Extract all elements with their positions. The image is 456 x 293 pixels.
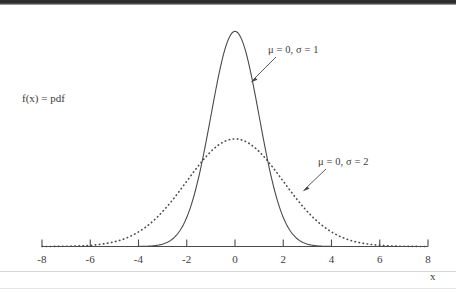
x-axis-tick-label: 0 <box>222 253 248 265</box>
x-axis-ticks <box>42 240 428 247</box>
annotation-arrow-sigma-1 <box>251 57 277 83</box>
annotation-label-sigma-2: μ = 0, σ = 2 <box>318 156 369 167</box>
x-axis-tick-label: 4 <box>319 253 345 265</box>
x-axis-tick-label: -4 <box>126 253 152 265</box>
x-axis-tick-label: -6 <box>77 253 103 265</box>
normal-distribution-plot <box>0 0 456 293</box>
x-axis-tick-label: 2 <box>270 253 296 265</box>
x-axis-label: x <box>430 270 436 282</box>
y-axis-label: f(x) = pdf <box>22 92 65 104</box>
curve-sigma-2 <box>42 139 428 247</box>
x-axis-tick-label: 6 <box>367 253 393 265</box>
annotation-arrow-sigma-2 <box>303 169 327 192</box>
x-axis-tick-label: -8 <box>29 253 55 265</box>
chart-figure: f(x) = pdf x μ = 0, σ = 1 μ = 0, σ = 2 -… <box>0 0 456 293</box>
x-axis-tick-label: -2 <box>174 253 200 265</box>
x-axis-tick-label: 8 <box>415 253 441 265</box>
annotation-label-sigma-1: μ = 0, σ = 1 <box>268 44 319 55</box>
curve-sigma-1 <box>42 31 428 246</box>
